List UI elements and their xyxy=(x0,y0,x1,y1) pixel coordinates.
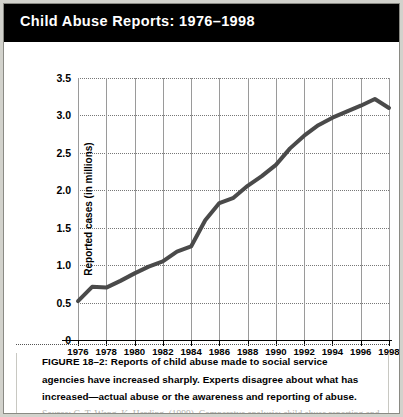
y-axis-tick-label: 2.0 xyxy=(56,184,71,196)
figure-source: Source: G. T. Wang, K. Harding. (1999). … xyxy=(42,409,382,414)
x-axis-tick-label: 1998 xyxy=(378,346,399,357)
figure-title-bar: Child Abuse Reports: 1976–1998 xyxy=(4,4,400,42)
y-axis-tick-label: 1.5 xyxy=(56,222,71,234)
chart-area: 00.51.01.52.02.53.03.5197619781980198219… xyxy=(4,42,400,338)
page-title: Child Abuse Reports: 1976–1998 xyxy=(20,13,255,29)
y-axis-tick-label: 0.5 xyxy=(56,297,71,309)
data-line xyxy=(78,99,389,301)
caption-divider xyxy=(16,344,389,345)
x-gridline xyxy=(389,78,390,340)
y-axis-tick-label: 3.5 xyxy=(56,72,71,84)
figure-card: Child Abuse Reports: 1976–1998 00.51.01.… xyxy=(3,3,400,414)
caption-right-rule xyxy=(388,353,389,414)
plot-region: 00.51.01.52.02.53.03.5197619781980198219… xyxy=(78,78,389,340)
y-axis-tick-label: 2.5 xyxy=(56,147,71,159)
figure-root: Child Abuse Reports: 1976–1998 00.51.01.… xyxy=(0,0,403,417)
data-line-series xyxy=(78,78,389,340)
y-axis-tick-label: 1.0 xyxy=(56,259,71,271)
caption-left-rule xyxy=(16,353,17,414)
y-axis-tick-label: 3.0 xyxy=(56,109,71,121)
y-axis-label: Reported cases (in millions) xyxy=(83,142,94,275)
figure-caption: FIGURE 18–2: Reports of child abuse made… xyxy=(42,353,372,406)
x-axis-line xyxy=(62,340,392,341)
